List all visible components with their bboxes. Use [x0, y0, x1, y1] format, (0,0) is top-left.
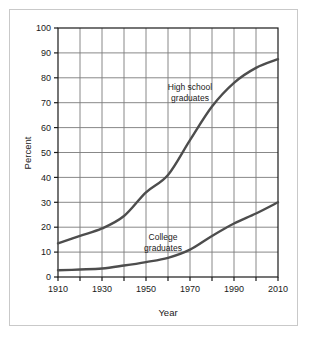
annotation-college-line1: College [149, 232, 178, 242]
x-axis-ticks [58, 277, 278, 281]
x-tick-label: 1950 [136, 284, 156, 294]
y-tick-label: 40 [41, 173, 51, 183]
annotation-high-school-line2: graduates [171, 93, 209, 103]
x-tick-label: 1930 [92, 284, 112, 294]
y-tick-label: 90 [41, 48, 51, 58]
y-tick-label: 0 [46, 272, 51, 282]
y-tick-label: 50 [41, 148, 51, 158]
y-axis-title: Percent [22, 136, 33, 169]
y-tick-label: 10 [41, 247, 51, 257]
x-axis-title: Year [158, 307, 177, 318]
annotation-college-line2: graduates [144, 243, 182, 253]
y-axis-tick-labels: 0102030405060708090100 [36, 23, 51, 282]
chart-figure: 0102030405060708090100 19101930195019701… [0, 0, 309, 337]
y-tick-label: 70 [41, 98, 51, 108]
y-tick-label: 80 [41, 73, 51, 83]
x-tick-label: 2010 [268, 284, 288, 294]
y-tick-label: 30 [41, 198, 51, 208]
y-tick-label: 20 [41, 222, 51, 232]
y-tick-label: 60 [41, 123, 51, 133]
y-tick-label: 100 [36, 23, 51, 33]
x-axis-tick-labels: 191019301950197019902010 [48, 284, 288, 294]
education-attainment-line-chart: 0102030405060708090100 19101930195019701… [0, 0, 309, 337]
annotation-high-school-line1: High school [168, 82, 213, 92]
x-tick-label: 1990 [224, 284, 244, 294]
x-tick-label: 1970 [180, 284, 200, 294]
x-tick-label: 1910 [48, 284, 68, 294]
